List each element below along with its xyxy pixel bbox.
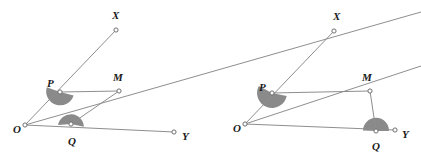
left-diagram: O P Q M X Y xyxy=(13,9,421,147)
left-label-x: X xyxy=(111,9,120,21)
right-vertex-p xyxy=(270,91,274,95)
left-vertex-x xyxy=(114,28,118,32)
right-label-m: M xyxy=(361,71,373,83)
right-label-p: P xyxy=(259,81,266,93)
left-vertex-p xyxy=(58,90,62,94)
right-ray-o-to-x xyxy=(245,31,334,124)
left-segment-p-to-m xyxy=(60,91,119,92)
right-vertex-x xyxy=(332,29,336,33)
left-vertex-y xyxy=(172,130,176,134)
left-vertex-q xyxy=(69,122,73,126)
geometry-diagram-svg: O P Q M X Y O xyxy=(0,0,421,153)
right-label-y: Y xyxy=(402,128,410,140)
left-vertex-o xyxy=(23,123,27,127)
left-ray-o-through-m-extended xyxy=(25,12,421,125)
left-label-q: Q xyxy=(68,135,76,147)
right-vertex-m xyxy=(368,89,372,93)
right-label-x: X xyxy=(332,10,341,22)
right-vertex-o xyxy=(243,122,247,126)
left-label-o: O xyxy=(13,123,21,135)
right-diagram: O P Q M X Y xyxy=(233,10,421,152)
left-label-y: Y xyxy=(182,130,190,142)
right-vertex-q xyxy=(374,129,378,133)
figure-canvas: O P Q M X Y O xyxy=(0,0,421,153)
left-ray-o-to-x xyxy=(25,30,116,125)
right-label-q: Q xyxy=(372,140,380,152)
left-label-p: P xyxy=(47,77,54,89)
left-label-m: M xyxy=(112,71,124,83)
left-vertex-m xyxy=(117,89,121,93)
right-label-o: O xyxy=(233,122,241,134)
left-segment-q-to-m xyxy=(71,91,119,124)
right-segment-p-to-m xyxy=(272,91,370,93)
right-vertex-y xyxy=(393,128,397,132)
left-ray-o-to-y xyxy=(25,125,174,132)
